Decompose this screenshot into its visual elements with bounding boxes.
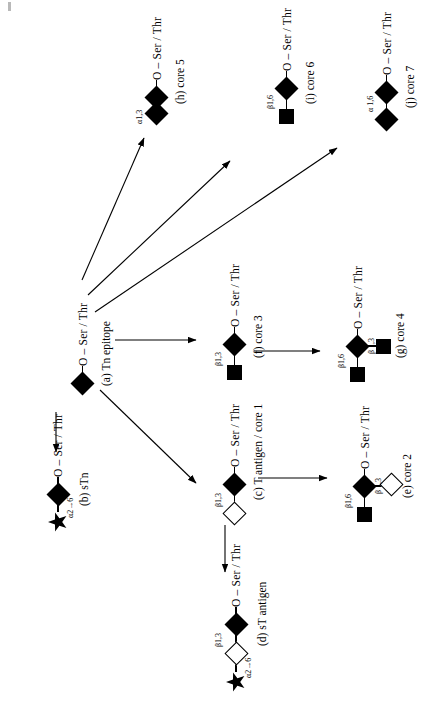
figure-canvas: O – Ser / Thr α1,3 (h) core 5 O – Ser / … <box>0 0 422 711</box>
core5-linkage-label: α1,3 <box>135 110 144 124</box>
core7-glyphs: O – Ser / Thr <box>378 12 395 128</box>
structure-tn-epitope: O – Ser / Thr (a) Tn epitope <box>74 303 112 392</box>
galnac-diamond-icon <box>222 472 246 496</box>
structure-core3: O – Ser / Thr β1,3 (f) core 3 <box>226 264 264 380</box>
tn-glyphs: O – Ser / Thr <box>74 303 91 392</box>
core7-caption: (j) core 7 <box>404 12 416 108</box>
core3-linkage-label: β1,3 <box>214 352 223 366</box>
sialic-acid-star-icon <box>48 512 68 532</box>
galnac-diamond-icon <box>144 85 168 109</box>
t-antigen-linkage-label: β1,3 <box>214 493 223 507</box>
glcnac-square-icon <box>279 109 294 124</box>
core5-glyphs: O – Ser / Thr <box>148 17 165 122</box>
gal-open-diamond-icon <box>379 472 403 496</box>
galnac-diamond-icon <box>70 371 94 395</box>
core7-linkage-label: α 1,6 <box>366 96 375 112</box>
st-antigen-aglycone: O – Ser / Thr <box>230 544 242 607</box>
core2-linkage-16: β1,6 <box>344 494 353 508</box>
galnac-diamond-icon <box>222 332 246 356</box>
galnac-diamond-icon <box>374 107 398 131</box>
core3-caption: (f) core 3 <box>252 264 264 358</box>
arrow-tn-to-t-antigen <box>100 390 196 483</box>
st-antigen-glyphs: O – Ser / Thr <box>226 544 246 692</box>
core7-aglycone: O – Ser / Thr <box>381 12 393 75</box>
structure-t-antigen: O – Ser / Thr β1,3 (c) T antigen / core … <box>226 404 264 522</box>
core6-linkage-label: β1,6 <box>266 95 275 109</box>
core4-glyphs: O – Ser / Thr <box>349 266 366 382</box>
galnac-diamond-icon <box>224 612 248 636</box>
structure-core2: O – Ser / Thr β1,6 β 1,3 (e) core 2 <box>356 406 413 522</box>
glcnac-square-icon <box>227 365 242 380</box>
t-antigen-glyphs: O – Ser / Thr <box>226 404 243 522</box>
stn-glyphs: O – Ser / Thr <box>48 414 68 532</box>
core6-aglycone: O – Ser / Thr <box>281 8 293 71</box>
t-antigen-aglycone: O – Ser / Thr <box>229 404 241 467</box>
galnac-diamond-icon <box>274 76 298 100</box>
structure-core4: O – Ser / Thr β1,6 β 1,3 (g) core 4 <box>349 266 406 382</box>
core3-aglycone: O – Ser / Thr <box>229 264 241 327</box>
structure-core5: O – Ser / Thr α1,3 (h) core 5 <box>148 17 186 122</box>
tn-aglycone: O – Ser / Thr <box>77 303 89 366</box>
arrow-tn-to-core5 <box>82 138 144 280</box>
stn-linkage-label: α2→6 <box>66 498 75 518</box>
structure-st-antigen: O – Ser / Thr α2→6 β1,3 (d) sT antigen <box>226 544 268 692</box>
glcnac-square-icon <box>357 507 372 522</box>
stn-caption: (b) sTn <box>78 414 90 506</box>
core6-glyphs: O – Ser / Thr <box>278 8 295 124</box>
st-antigen-caption: (d) sT antigen <box>256 544 268 646</box>
gal-open-diamond-icon <box>222 501 246 525</box>
core4-caption: (g) core 4 <box>394 266 406 358</box>
structure-core7: O – Ser / Thr α 1,6 (j) core 7 <box>378 12 416 128</box>
core2-aglycone: O – Ser / Thr <box>359 406 371 469</box>
glcnac-square-icon <box>376 339 391 354</box>
stn-aglycone: O – Ser / Thr <box>52 414 64 477</box>
core2-glyphs: O – Ser / Thr <box>356 406 373 522</box>
sialic-acid-star-icon <box>226 672 246 692</box>
st-antigen-linkage-13: β1,3 <box>214 633 223 647</box>
core4-aglycone: O – Ser / Thr <box>352 266 364 329</box>
core4-linkage-13: β 1,3 <box>367 338 376 354</box>
glcnac-square-icon <box>350 367 365 382</box>
structure-core6: O – Ser / Thr β1,6 (i) core 6 <box>278 8 316 124</box>
tn-caption: (a) Tn epitope <box>100 303 112 386</box>
arrow-tn-to-core6 <box>88 161 230 295</box>
core5-aglycone: O – Ser / Thr <box>151 17 163 80</box>
core5-caption: (h) core 5 <box>174 17 186 104</box>
core6-caption: (i) core 6 <box>304 8 316 104</box>
structure-stn: O – Ser / Thr α2→6 (b) sTn <box>48 414 90 532</box>
arrow-tn-to-core7 <box>95 148 337 312</box>
st-antigen-linkage-26: α2→6 <box>244 658 253 678</box>
core3-glyphs: O – Ser / Thr <box>226 264 243 380</box>
core4-linkage-16: β1,6 <box>337 354 346 368</box>
core2-linkage-13: β 1,3 <box>374 478 383 494</box>
t-antigen-caption: (c) T antigen / core 1 <box>252 404 264 500</box>
scan-artifact <box>8 2 11 11</box>
galnac-diamond-icon <box>374 80 398 104</box>
